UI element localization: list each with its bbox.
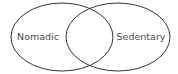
venn-diagram: Nomadic Sedentary [0, 0, 178, 74]
nomadic-label: Nomadic [17, 31, 59, 42]
venn-svg: Nomadic Sedentary [0, 0, 178, 74]
sedentary-label: Sedentary [117, 31, 166, 42]
